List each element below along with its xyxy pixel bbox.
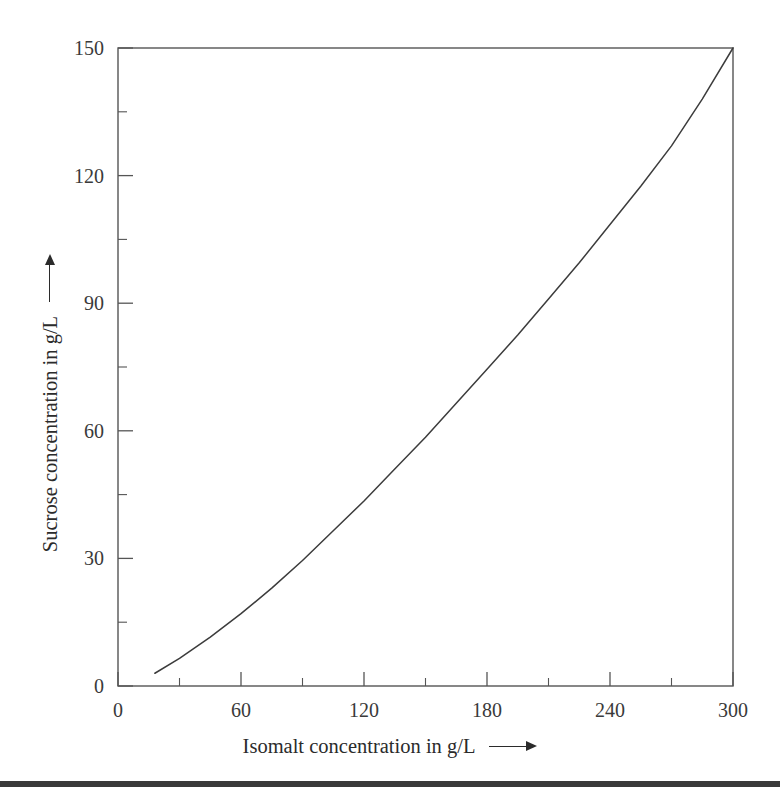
y-axis-title: Sucrose concentration in g/L: [37, 168, 63, 638]
up-arrow-icon: [44, 254, 56, 302]
y-tick-label-0: 0: [46, 676, 104, 696]
x-axis-minor-ticks: [180, 678, 672, 686]
x-tick-label-0: 0: [113, 700, 123, 720]
data-series-line: [155, 48, 733, 673]
x-tick-label-240: 240: [595, 700, 625, 720]
right-arrow-icon: [489, 741, 537, 753]
x-axis-title-text: Isomalt concentration in g/L: [243, 735, 476, 758]
x-axis-title: Isomalt concentration in g/L: [0, 735, 780, 758]
x-tick-label-180: 180: [472, 700, 502, 720]
x-tick-label-120: 120: [349, 700, 379, 720]
y-axis-minor-ticks: [118, 112, 127, 622]
footer-rule: [0, 781, 780, 787]
x-tick-label-60: 60: [231, 700, 251, 720]
x-tick-label-300: 300: [718, 700, 748, 720]
plot-canvas: [0, 0, 780, 797]
chart-figure: 0 30 60 90 120 150 0 60 120 180 240 300 …: [0, 0, 780, 797]
plot-frame: [118, 48, 733, 686]
y-tick-label-150: 150: [46, 38, 104, 58]
y-axis-title-text: Sucrose concentration in g/L: [39, 316, 62, 552]
